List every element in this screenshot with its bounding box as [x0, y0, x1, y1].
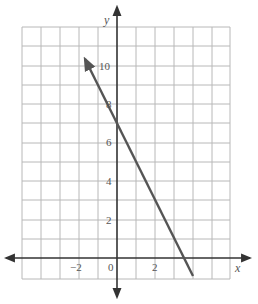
origin-label: 0: [108, 261, 114, 273]
x-axis-label: x: [234, 261, 241, 275]
grid: [22, 27, 230, 279]
y-tick-4: 4: [106, 175, 112, 187]
y-tick-6: 6: [106, 136, 112, 148]
x-tick-2: 2: [152, 261, 158, 273]
coordinate-plane: y x 10 8 6 4 2 −2 0 2: [0, 0, 258, 304]
y-tick-2: 2: [106, 214, 112, 226]
y-tick-8: 8: [106, 98, 112, 110]
data-line: [85, 59, 193, 276]
y-axis-label: y: [103, 13, 110, 27]
y-tick-10: 10: [99, 60, 111, 72]
x-tick-neg2: −2: [70, 261, 82, 273]
